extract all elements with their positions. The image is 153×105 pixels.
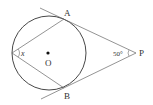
chord-to-b	[12, 53, 64, 88]
label-b: B	[64, 91, 70, 101]
label-a: A	[64, 8, 71, 18]
tangent-pa	[40, 8, 136, 53]
label-o: O	[45, 58, 52, 68]
label-angle-p: 50°	[113, 50, 123, 58]
chord-to-a	[12, 19, 64, 53]
center-dot	[46, 51, 49, 54]
geometry-diagram: A B O P x 50°	[0, 0, 153, 105]
angle-x-arc	[18, 49, 20, 57]
tangent-pb	[41, 53, 136, 99]
label-x: x	[20, 49, 25, 58]
label-p: P	[139, 48, 144, 58]
angle-p-arc	[128, 50, 129, 56]
